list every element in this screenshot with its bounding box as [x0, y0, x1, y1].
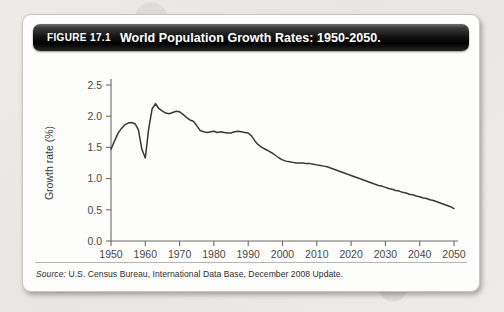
x-tick-label: 1950: [99, 248, 123, 259]
x-tick-label: 2030: [374, 248, 398, 259]
y-tick-label: 0.5: [87, 204, 102, 216]
x-tick-label: 2020: [339, 248, 363, 259]
y-tick-label: 1.5: [87, 141, 102, 153]
figure-number-label: FIGURE 17.1: [47, 32, 111, 43]
data-line: [111, 104, 454, 209]
x-tick-label: 1970: [168, 248, 192, 259]
growth-rate-line-chart: 0.00.51.01.52.02.51950196019701980199020…: [23, 55, 479, 259]
x-tick-label: 2040: [408, 248, 432, 259]
figure-panel: FIGURE 17.1 World Population Growth Rate…: [22, 14, 480, 292]
y-axis-title: Growth rate (%): [43, 126, 55, 200]
x-tick-label: 1990: [237, 248, 261, 259]
footer-divider: [35, 262, 467, 263]
x-tick-label: 1960: [134, 248, 158, 259]
source-note: Source: U.S. Census Bureau, Internationa…: [36, 269, 464, 279]
source-label: Source:: [36, 269, 66, 279]
y-tick-label: 1.0: [87, 172, 102, 184]
y-tick-label: 2.0: [87, 110, 102, 122]
source-text: U.S. Census Bureau, International Data B…: [68, 269, 343, 279]
x-tick-label: 2010: [305, 248, 329, 259]
x-tick-label: 1980: [202, 248, 226, 259]
x-tick-label: 2050: [442, 248, 466, 259]
figure-title: World Population Growth Rates: 1950-2050…: [120, 31, 381, 45]
figure-header-bar: FIGURE 17.1 World Population Growth Rate…: [33, 24, 469, 51]
y-tick-label: 0.0: [87, 235, 102, 247]
y-tick-label: 2.5: [87, 79, 102, 91]
chart-area: 0.00.51.01.52.02.51950196019701980199020…: [23, 55, 479, 259]
x-tick-label: 2000: [271, 248, 295, 259]
